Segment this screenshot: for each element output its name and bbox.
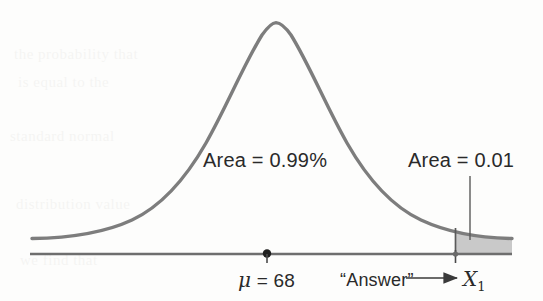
x1-label: X1: [463, 269, 486, 293]
shaded-tail-region: [32, 23, 512, 254]
x1-axis-point: [453, 251, 458, 256]
bell-curve: [32, 23, 512, 239]
answer-label: “Answer”: [340, 271, 414, 289]
area-label-body: Area = 0.99%: [203, 150, 327, 170]
area-label-tail: Area = 0.01: [408, 150, 514, 170]
x1-variable: X: [463, 267, 477, 291]
mean-value: = 68: [251, 270, 295, 291]
mean-label: μ = 68: [238, 270, 295, 290]
x1-subscript: 1: [477, 279, 485, 294]
normal-distribution-figure: the probability that is equal to the sta…: [0, 0, 543, 301]
mu-symbol: μ: [238, 268, 251, 292]
